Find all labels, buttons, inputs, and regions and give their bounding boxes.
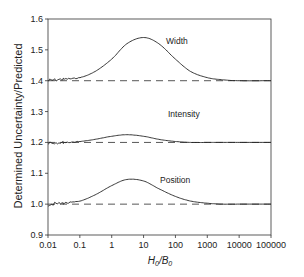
y-axis-ticks: 0.91.01.11.21.31.41.51.6: [30, 14, 48, 240]
y-tick-label: 1.4: [30, 76, 43, 86]
y-tick-label: 1.1: [30, 168, 43, 178]
width-label: Width: [166, 36, 188, 46]
position-label: Position: [160, 175, 191, 185]
x-tick-label: 10: [139, 240, 149, 250]
y-tick-label: 0.9: [30, 230, 43, 240]
x-axis-ticks: 0.010.1110100100010000100000: [39, 235, 286, 250]
y-tick-label: 1.6: [30, 14, 43, 24]
x-tick-label: 0.01: [39, 240, 57, 250]
x-tick-label: 1000: [197, 240, 217, 250]
intensity-label: Intensity: [168, 109, 200, 119]
x-tick-label: 100: [168, 240, 183, 250]
x-tick-label: 10000: [227, 240, 252, 250]
x-tick-label: 0.1: [74, 240, 87, 250]
x-tick-label: 1: [109, 240, 114, 250]
x-label-b: /B: [159, 255, 168, 266]
y-tick-label: 1.0: [30, 199, 43, 209]
y-tick-label: 1.3: [30, 107, 43, 117]
curve-width: [48, 38, 271, 82]
chart-canvas: 0.91.01.11.21.31.41.51.6 0.010.111010010…: [0, 0, 304, 277]
plot-frame: [48, 19, 271, 235]
x-axis-label: H0/B0: [130, 255, 190, 267]
x-tick-label: 100000: [256, 240, 286, 250]
y-tick-label: 1.2: [30, 137, 43, 147]
y-tick-label: 1.5: [30, 45, 43, 55]
x-label-sub2: 0: [168, 260, 172, 267]
y-axis-label: Determined Uncertainty/Predicted: [12, 36, 24, 216]
x-label-h: H: [148, 255, 155, 266]
